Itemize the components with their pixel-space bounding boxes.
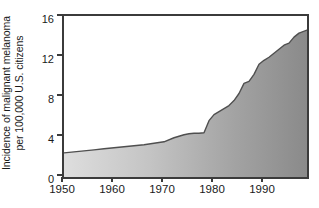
x-tick-mark-1980 xyxy=(211,177,213,182)
y-tick-label-4: 4 xyxy=(28,133,54,145)
x-tick-label-1970: 1970 xyxy=(142,183,182,195)
y-axis-title-line-2: per 100,000 U.S. citizens xyxy=(13,0,26,186)
plot-area xyxy=(62,14,309,179)
area-fill xyxy=(64,30,307,177)
x-tick-label-1990: 1990 xyxy=(242,183,282,195)
y-tick-label-12: 12 xyxy=(28,53,54,65)
area-series-svg xyxy=(64,16,307,177)
melanoma-incidence-chart: Incidence of malignant melanoma per 100,… xyxy=(0,0,319,208)
y-tick-label-16: 16 xyxy=(28,13,54,25)
x-tick-label-1980: 1980 xyxy=(192,183,232,195)
x-tick-mark-1950 xyxy=(61,177,63,182)
x-tick-mark-1990 xyxy=(261,177,263,182)
y-tick-label-8: 8 xyxy=(28,93,54,105)
x-tick-mark-1960 xyxy=(111,177,113,182)
y-axis-title-line-1: Incidence of malignant melanoma xyxy=(0,0,13,186)
x-tick-mark-1970 xyxy=(161,177,163,182)
x-tick-label-1950: 1950 xyxy=(42,183,82,195)
x-tick-label-1960: 1960 xyxy=(92,183,132,195)
